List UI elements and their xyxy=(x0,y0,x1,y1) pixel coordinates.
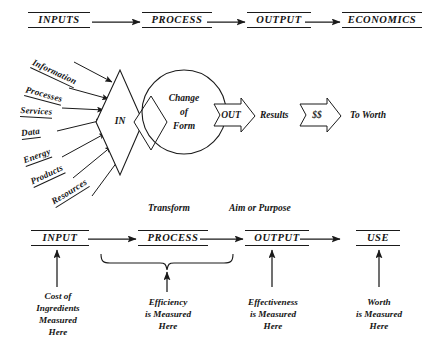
diagram-canvas: INPUTS PROCESS OUTPUT ECONOMICS Informat… xyxy=(0,0,427,348)
input-label-energy: Energy xyxy=(22,146,53,167)
caption-line: Here xyxy=(12,327,104,339)
top-stage-inputs: INPUTS xyxy=(28,12,90,28)
caption-line: Efficiency xyxy=(122,297,214,309)
caption-line: Worth xyxy=(333,297,425,309)
to-worth-label: To Worth xyxy=(350,110,386,121)
bottom-stage-use: USE xyxy=(356,230,400,246)
caption-line: Effectiveness xyxy=(225,297,321,309)
caption-line: Measured xyxy=(12,315,104,327)
caption-line: is Measured xyxy=(333,309,425,321)
caption-line: Ingredients xyxy=(12,303,104,315)
input-label-services: Services xyxy=(20,105,53,119)
caption-pointer-arrows xyxy=(57,250,379,292)
input-label-products: Products xyxy=(29,163,65,189)
caption-line: Here xyxy=(122,321,214,333)
caption-line: Cost of xyxy=(12,291,104,303)
input-label-processes: Processes xyxy=(24,84,64,105)
circle-label-line2: of xyxy=(156,107,212,118)
input-label-information: Information xyxy=(30,57,78,88)
circle-label-line1: Change xyxy=(156,93,212,104)
caption-line: Here xyxy=(333,321,425,333)
caption-line: Here xyxy=(225,321,321,333)
bottom-stage-process: PROCESS xyxy=(138,230,208,246)
caption-line: is Measured xyxy=(225,309,321,321)
top-stage-process: PROCESS xyxy=(142,12,212,28)
circle-label-line3: Form xyxy=(156,121,212,132)
results-label: Results xyxy=(260,110,289,121)
annotation-transform: Transform xyxy=(148,203,190,214)
input-label-resources: Resources xyxy=(50,177,90,208)
caption-efficiency: Efficiency is Measured Here xyxy=(122,297,214,333)
bottom-stage-output: OUTPUT xyxy=(245,230,309,246)
caption-cost-of-ingredients: Cost of Ingredients Measured Here xyxy=(12,291,104,339)
caption-line: is Measured xyxy=(122,309,214,321)
input-label-data: Data xyxy=(21,126,41,140)
caption-worth: Worth is Measured Here xyxy=(333,297,425,333)
money-arrow-label: $$ xyxy=(303,110,331,120)
process-brace xyxy=(101,254,233,270)
out-arrow-label: OUT xyxy=(216,110,246,120)
in-diamond-label: IN xyxy=(105,116,135,127)
bottom-stage-input: INPUT xyxy=(31,230,89,246)
top-stage-economics: ECONOMICS xyxy=(342,12,422,28)
caption-effectiveness: Effectiveness is Measured Here xyxy=(225,297,321,333)
top-stage-output: OUTPUT xyxy=(247,12,311,28)
annotation-aim-or-purpose: Aim or Purpose xyxy=(229,203,291,214)
